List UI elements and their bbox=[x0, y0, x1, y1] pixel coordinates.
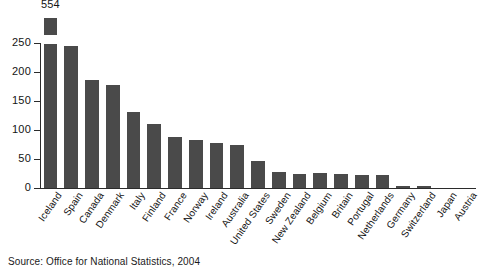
bar bbox=[251, 0, 265, 189]
bar bbox=[147, 0, 161, 189]
bar-rect bbox=[334, 174, 348, 189]
bar-rect bbox=[355, 175, 369, 188]
bar bbox=[127, 0, 141, 189]
bar bbox=[376, 0, 390, 189]
y-axis-ticks: 050100150200250 bbox=[0, 0, 40, 266]
x-axis-labels: IcelandSpainCanadaDenmarkItalyFinlandFra… bbox=[40, 190, 476, 260]
source-note: Source: Office for National Statistics, … bbox=[8, 256, 200, 268]
x-axis-label: Iceland bbox=[36, 190, 64, 223]
y-axis-tick-label: 100 bbox=[12, 123, 31, 136]
bar-rect bbox=[251, 161, 265, 188]
bar-rect bbox=[64, 46, 78, 188]
bar-value-label: 554 bbox=[34, 0, 68, 10]
bar-rect bbox=[293, 174, 307, 189]
y-axis-tick-label: 50 bbox=[18, 152, 31, 165]
bar-rect bbox=[396, 186, 410, 188]
bar bbox=[438, 0, 452, 189]
bar-rect bbox=[376, 175, 390, 188]
bar bbox=[313, 0, 327, 189]
bar-rect bbox=[210, 143, 224, 188]
bar-rect bbox=[147, 124, 161, 188]
bar bbox=[189, 0, 203, 189]
bar bbox=[85, 0, 99, 189]
bar-series: 554 bbox=[40, 0, 476, 189]
bar-rect bbox=[189, 140, 203, 188]
y-axis-tick-label: 150 bbox=[12, 94, 31, 107]
bar-rect bbox=[85, 80, 99, 188]
bar-rect bbox=[313, 173, 327, 188]
bar bbox=[210, 0, 224, 189]
bar bbox=[334, 0, 348, 189]
bar bbox=[272, 0, 286, 189]
bar bbox=[417, 0, 431, 189]
bar-rect bbox=[168, 137, 182, 188]
bar bbox=[230, 0, 244, 189]
x-axis-label: Italy bbox=[127, 190, 147, 212]
bar bbox=[106, 0, 120, 189]
bar-rect bbox=[417, 186, 431, 188]
bar-rect bbox=[106, 85, 120, 188]
bar bbox=[459, 0, 473, 189]
y-axis-tick-label: 250 bbox=[12, 36, 31, 49]
bar-rect bbox=[127, 112, 141, 188]
bar-rect bbox=[272, 172, 286, 188]
bar bbox=[396, 0, 410, 189]
bar-rect bbox=[230, 145, 244, 189]
y-axis-tick-label: 0 bbox=[25, 181, 31, 194]
bar bbox=[64, 0, 78, 189]
axis-break-zigzag-icon bbox=[44, 35, 58, 44]
bar: 554 bbox=[44, 0, 58, 189]
bar bbox=[293, 0, 307, 189]
y-axis-tick-label: 200 bbox=[12, 65, 31, 78]
bar bbox=[355, 0, 369, 189]
bar bbox=[168, 0, 182, 189]
